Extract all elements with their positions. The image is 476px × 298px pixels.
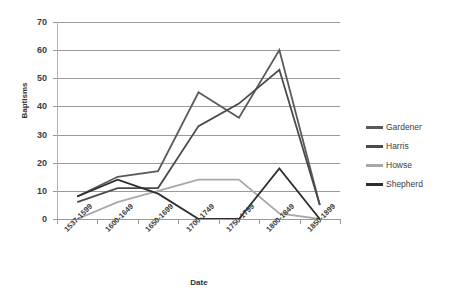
legend-item-gardener[interactable]: Gardener <box>366 118 472 137</box>
legend: GardenerHarrisHowseShepherd <box>366 118 472 194</box>
legend-swatch-icon <box>366 126 383 129</box>
x-tick-mark-3 <box>178 219 179 224</box>
series-line-shepherd <box>77 168 320 219</box>
x-tick-mark-6 <box>300 219 301 224</box>
legend-swatch-icon <box>366 145 383 148</box>
y-tick-label-70: 70 <box>7 18 47 27</box>
legend-item-howse[interactable]: Howse <box>366 156 472 175</box>
y-tick-label-10: 10 <box>7 187 47 196</box>
x-tick-mark-5 <box>259 219 260 224</box>
x-tick-mark-1 <box>97 219 98 224</box>
x-tick-mark-2 <box>138 219 139 224</box>
series-line-howse <box>77 180 320 219</box>
legend-label: Shepherd <box>386 180 423 189</box>
x-tick-mark-7 <box>340 219 341 224</box>
x-axis <box>57 219 341 225</box>
legend-swatch-icon <box>366 164 383 167</box>
legend-swatch-icon <box>366 183 383 186</box>
series-line-harris <box>77 70 320 205</box>
y-tick-label-60: 60 <box>7 46 47 55</box>
legend-item-harris[interactable]: Harris <box>366 137 472 156</box>
y-axis: 706050403020100 <box>0 0 57 298</box>
legend-label: Gardener <box>386 123 422 132</box>
x-tick-mark-4 <box>219 219 220 224</box>
y-tick-label-0: 0 <box>7 215 47 224</box>
legend-label: Howse <box>386 161 412 170</box>
y-tick-label-20: 20 <box>7 159 47 168</box>
x-axis-title: Date <box>57 278 341 287</box>
y-axis-title: Baptisms <box>20 71 29 131</box>
x-tick-mark-0 <box>57 219 58 224</box>
y-tick-label-30: 30 <box>7 131 47 140</box>
series-lines <box>57 22 340 219</box>
legend-item-shepherd[interactable]: Shepherd <box>366 175 472 194</box>
line-chart: 706050403020100 Baptisms 1537-15991600-1… <box>0 0 476 298</box>
legend-label: Harris <box>386 142 409 151</box>
